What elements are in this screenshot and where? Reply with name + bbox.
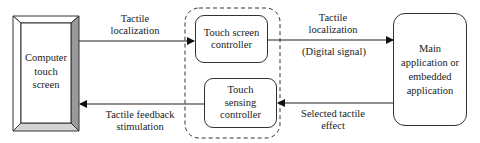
edge-label-screen-to-controller-1: Tactile: [95, 13, 175, 25]
edge-label-app-to-sensing-2: effect: [288, 120, 378, 132]
edge-label-controller-to-app-1: Tactile: [293, 12, 373, 24]
touch-screen-controller-label: Touch screen controller: [204, 27, 260, 52]
touch-screen-label: Computer touch screen: [21, 51, 71, 92]
touch-sensing-controller-node: Touch sensing controller: [204, 78, 277, 128]
edge-label-app-to-sensing-1: Selected tactile: [288, 108, 378, 120]
edge-label-controller-to-app-2: localization: [293, 24, 373, 36]
main-application-node: Main application or embedded application: [393, 13, 467, 126]
edge-label-screen-to-controller-2: localization: [95, 25, 175, 37]
edge-label-sensing-to-screen-2: stimulation: [90, 121, 190, 133]
edge-label-sensing-to-screen-1: Tactile feedback: [90, 109, 190, 121]
main-application-label: Main application or embedded application: [401, 42, 459, 98]
touch-sensing-controller-label: Touch sensing controller: [220, 84, 261, 122]
edge-label-controller-to-app-sub: (Digital signal): [289, 46, 379, 58]
touch-screen-controller-node: Touch screen controller: [195, 15, 268, 63]
